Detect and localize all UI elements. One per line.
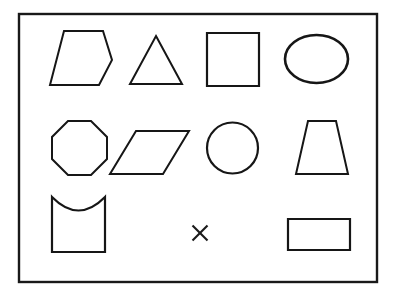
trapezoid <box>296 121 348 174</box>
pentagon <box>50 31 112 85</box>
ellipse <box>285 35 348 83</box>
octagon <box>52 121 107 175</box>
shapes-drawing <box>0 0 400 300</box>
shape-worksheet-canvas <box>0 0 400 300</box>
parallelogram <box>110 131 189 174</box>
concave-top-square <box>52 197 105 252</box>
triangle <box>130 36 182 84</box>
circle <box>207 123 258 174</box>
rectangle <box>288 219 350 250</box>
square <box>207 33 259 86</box>
x-mark <box>193 226 208 241</box>
outer-rectangle-border <box>19 14 377 282</box>
